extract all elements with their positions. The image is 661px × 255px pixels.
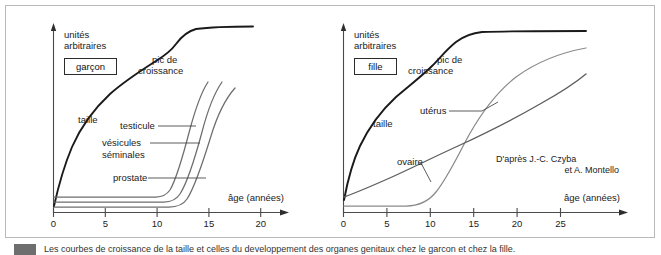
panel-garcon: unités arbitraires garçon pic de croissa… [6, 6, 336, 239]
x-axis-label: âge (années) [564, 192, 620, 203]
x-tick-label: 20 [252, 218, 270, 229]
peak-label-line2: croissance [138, 65, 183, 76]
sex-label-box-garcon: garçon [64, 58, 117, 75]
label-ovaire: ovaire [397, 156, 423, 167]
panel-fille: unités arbitraires fille pic de croissan… [336, 6, 656, 239]
x-tick-label: 25 [552, 218, 570, 229]
x-tick-label: 15 [200, 218, 218, 229]
x-tick-label: 0 [335, 218, 353, 229]
x-axis-label: âge (années) [228, 192, 284, 203]
x-tick-label: 15 [465, 218, 483, 229]
chart-garcon [6, 6, 336, 239]
y-axis-label-line1: unités [354, 29, 379, 40]
y-axis-label-line2: arbitraires [64, 40, 106, 51]
x-tick-label: 10 [421, 218, 439, 229]
figure-frame: unités arbitraires garçon pic de croissa… [5, 5, 655, 238]
x-tick-label: 5 [96, 218, 114, 229]
peak-label-line1: pic de [437, 54, 462, 65]
y-axis-label-line2: arbitraires [354, 40, 396, 51]
caption-text: Les courbes de croissance de la taille e… [44, 244, 515, 255]
peak-label-line1: pic de [152, 54, 177, 65]
x-axis-arrowhead [280, 210, 289, 216]
y-axis-arrowhead [341, 23, 346, 31]
y-axis-label-line1: unités [64, 29, 89, 40]
peak-label-line2: croissance [408, 65, 453, 76]
figure-root: unités arbitraires garçon pic de croissa… [0, 0, 661, 255]
label-testicule: testicule [120, 120, 155, 131]
x-tick-label: 5 [378, 218, 396, 229]
x-tick-label: 20 [508, 218, 526, 229]
credit-line2: et A. Montello [496, 165, 619, 177]
caption-color-swatch [14, 244, 36, 255]
label-prostate: prostate [113, 172, 147, 183]
label-taille: taille [78, 114, 98, 125]
x-axis-arrowhead [619, 210, 628, 216]
caption-strip: Les courbes de croissance de la taille e… [0, 244, 661, 255]
y-axis-arrowhead [51, 23, 56, 31]
credit-line1: D'après J.-C. Czyba [496, 154, 576, 166]
x-tick-label: 0 [45, 218, 63, 229]
label-taille: taille [373, 118, 393, 129]
label-uterus: utérus [420, 105, 446, 116]
sex-label-box-fille: fille [354, 58, 397, 75]
curve-ovaire [344, 74, 586, 197]
x-tick-label: 10 [148, 218, 166, 229]
label-vesicules-seminales: vésicules séminales [102, 137, 148, 160]
